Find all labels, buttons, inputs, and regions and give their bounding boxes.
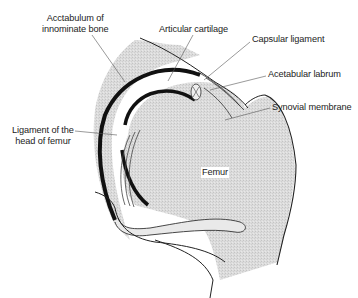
femur-bone: [122, 82, 295, 280]
leader-acetabular-labrum: [210, 76, 266, 90]
label-ligament-head-line1: Ligament of the: [12, 125, 74, 136]
label-articular-cartilage: Articular cartilage: [159, 24, 228, 35]
femur-neck-lower: [155, 240, 213, 298]
label-acetabular-labrum: Acetabular labrum: [268, 69, 341, 80]
label-capsular-ligament: Capsular ligament: [252, 34, 324, 45]
label-acetabulum: Acctabulum of innominate bone: [42, 13, 108, 35]
label-femur: Femur: [201, 167, 229, 178]
label-acetabulum-line2: innominate bone: [42, 24, 108, 35]
label-ligament-head: Ligament of the head of femur: [12, 125, 74, 147]
label-ligament-head-line2: head of femur: [12, 136, 74, 147]
leader-capsular-ligament: [204, 42, 250, 80]
label-acetabulum-line1: Acctabulum of: [42, 13, 108, 24]
label-synovial-membrane: Synovial membrane: [272, 102, 352, 113]
